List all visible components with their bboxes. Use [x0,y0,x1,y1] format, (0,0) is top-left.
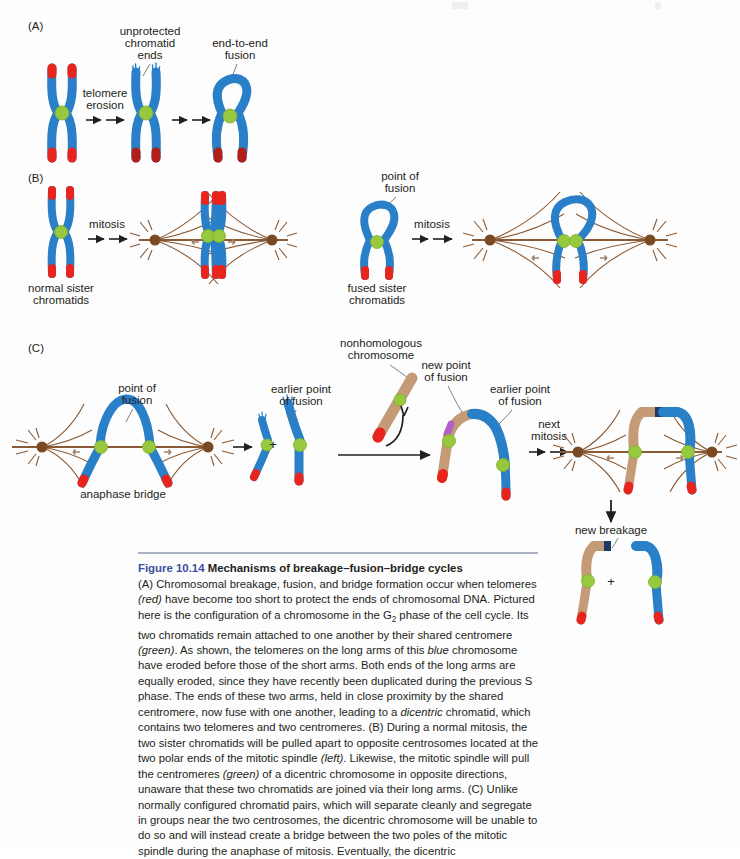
pull-arrow-c-right [164,450,171,455]
panel-c-label-earlier-point-b-line2: of fusion [498,395,541,407]
centrosome-left-2 [485,235,496,246]
panel-a-label-fusion-line2: fusion [225,49,256,61]
panel-a-chromosome-fused [216,79,247,158]
panel-a-label-unprotected-line3: ends [138,49,163,61]
panel-c-leader-fusion [126,409,133,422]
panel-c-arrow-label-next-line2: mitosis [531,430,567,442]
pull-arrow-c4-left [607,456,614,461]
panel-a-arrow-label-line2: erosion [86,99,124,111]
panel-c-fragment-large [283,395,307,481]
panel-b-arrow-label-left: mitosis [89,218,125,230]
pull-arrow-c4-right [676,456,683,461]
panel-c-label-earlier-point-b-line1: earlier point [490,383,551,395]
caption-body: (A) Chromosomal breakage, fusion, and br… [138,577,538,859]
pull-arrow-c-left [73,450,80,455]
caption-figure-number: Figure 10.14 [138,562,204,574]
panel-c-label-point-fusion-line1: point of [118,382,157,394]
panel-c-plus-1: + [269,437,277,452]
panel-b-spindle-normal [130,194,297,284]
panel-b-arrow-label-right: mitosis [414,218,450,230]
panel-c-translocated-chromosome [442,414,510,496]
panel-c-leader-new-breakage [612,538,618,548]
panel-b-letter: (B) [28,172,44,184]
figure-caption: Figure 10.14 Mechanisms of breakage–fusi… [138,552,538,859]
panel-b-fused-chromosome [364,205,394,276]
panel-c-arrow-label-next-line1: next [538,418,561,430]
panel-b-label-normal-line1: normal sister [28,282,94,294]
panel-c-join-arrowhead-up [401,406,408,416]
panel-b-label-point-fusion-line2: fusion [385,182,416,194]
caption-rule [138,552,538,554]
panel-c-label-new-point-line2: of fusion [424,371,467,383]
panel-c-label-earlier-point-line2: of fusion [279,395,322,407]
panel-b-label-point-fusion-line1: point of [381,170,420,182]
panel-b-normal-chromosome [52,190,71,274]
panel-c-label-point-fusion-line2: fusion [122,394,153,406]
panel-a-chromosome-eroded [133,63,160,158]
centrosome-c4-left [573,447,584,458]
centrosome-right-2 [645,235,656,246]
centrosome-left [150,235,161,246]
panel-a-label-fusion-line1: end-to-end [212,37,268,49]
panel-a-arrow-label-line1: telomere [83,87,128,99]
caption-title: Figure 10.14 Mechanisms of breakage–fusi… [138,561,538,576]
panel-b-metaphase-chromosome [202,195,226,275]
panel-b-label-fused-line1: fused sister [348,282,407,294]
panel-c-label-new-breakage: new breakage [575,524,647,536]
new-fusion-point-marker [447,424,451,434]
panel-c-label-anaphase-bridge: anaphase bridge [80,488,166,500]
panel-c-leader-nonhomologous [390,365,408,378]
centrosome-c4-right [707,447,718,458]
panel-a-label-unprotected-line1: unprotected [120,25,181,37]
panel-b-label-fused-line2: chromatids [349,294,405,306]
centrosome-c-right [203,442,214,453]
panel-a-leader-unprotected [143,64,150,76]
caption-title-text: Mechanisms of breakage–fusion–bridge cyc… [208,562,463,574]
panel-a-chromosome-intact [52,68,73,158]
pull-arrow-right-2 [600,256,607,261]
pull-arrow-left-2 [532,256,539,261]
panel-c-label-nonhomologous-line2: chromosome [348,349,414,361]
panel-c-label-nonhomologous-line1: nonhomologous [340,337,422,349]
panel-c-letter: (C) [28,342,44,354]
centrosome-right [267,235,278,246]
panel-c-label-new-point-line1: new point [421,359,471,371]
panel-b-spindle-dicentric [463,192,677,288]
panel-c-anaphase-bridge [12,399,234,488]
panel-b: (B) normal sister chromatids mitosis [28,170,677,306]
panel-c-leader-earlier-point-b [499,410,512,424]
panel-b-label-normal-line2: chromatids [33,294,89,306]
centrosome-c-left [37,442,48,453]
panel-c-label-earlier-point-line1: earlier point [271,383,332,395]
panel-a-letter: (A) [28,20,44,32]
panel-c-leader-new-point [448,386,462,412]
panel-c-plus-2: + [607,574,615,589]
panel-a-label-unprotected-line2: chromatid [125,37,176,49]
panel-a: (A) unprotected chromatid ends end-to-en… [28,20,268,158]
panel-c-breakage-right-product [636,546,662,620]
